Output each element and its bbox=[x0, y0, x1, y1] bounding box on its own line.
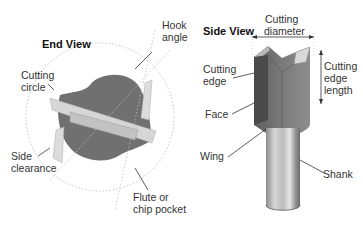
end-view-graphic bbox=[26, 30, 174, 210]
router-bit-diagram: End View Hook angle Cutting circle Side … bbox=[0, 0, 363, 225]
cutting-circle-label-line1: Cutting bbox=[21, 69, 54, 81]
face-label: Face bbox=[205, 108, 228, 120]
side-view-title: Side View bbox=[203, 25, 254, 37]
cutting-circle-label-line2: circle bbox=[21, 81, 46, 93]
flute-label-line1: Flute or bbox=[133, 191, 169, 203]
hook-angle-label-line2: angle bbox=[162, 31, 188, 43]
cutting-edge-length-label-line2: edge bbox=[324, 72, 347, 84]
flute-label-line2: chip pocket bbox=[133, 203, 186, 215]
cutting-diameter-label-line1: Cutting bbox=[265, 13, 298, 25]
shank-label: Shank bbox=[323, 168, 353, 180]
hook-angle-label-line1: Hook bbox=[162, 19, 187, 31]
cutting-edge-label-line2: edge bbox=[203, 75, 226, 87]
cutting-edge-length-label-line1: Cutting bbox=[324, 60, 357, 72]
side-clearance-label-line1: Side bbox=[11, 150, 32, 162]
face-icon bbox=[254, 55, 268, 125]
cutting-edge-length-label-line3: length bbox=[324, 84, 353, 96]
side-view-graphic bbox=[228, 33, 324, 210]
end-view-title: End View bbox=[42, 38, 91, 50]
cutting-edge-label-line1: Cutting bbox=[203, 63, 236, 75]
shank-icon bbox=[266, 128, 300, 210]
side-clearance-label-line2: clearance bbox=[11, 162, 57, 174]
wing-label: Wing bbox=[200, 150, 224, 162]
cutting-diameter-label-line2: diameter bbox=[264, 25, 305, 37]
